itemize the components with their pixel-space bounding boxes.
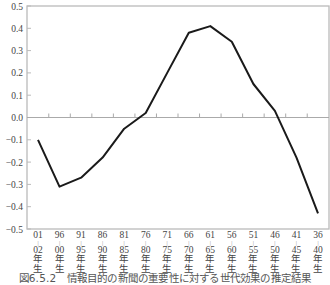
x-tick-label: 96|00年生 bbox=[50, 231, 70, 274]
y-tick-label: 0.0 bbox=[11, 113, 23, 123]
x-tick-label: 51|55年生 bbox=[243, 231, 263, 274]
x-ticks bbox=[49, 114, 307, 118]
x-tick-label: 01|02年生 bbox=[28, 231, 48, 274]
x-tick-label: 41|45年生 bbox=[286, 231, 306, 274]
x-tick-label: 86|90年生 bbox=[93, 231, 113, 274]
x-tick-label: 46|50年生 bbox=[265, 231, 285, 274]
figure-caption: 図6.5.2 情報目的の新聞の重要性に対する世代効果の推定結果 bbox=[0, 270, 330, 285]
y-tick-label: −0.3 bbox=[6, 180, 23, 190]
y-tick-label: 0.3 bbox=[11, 46, 23, 56]
y-tick-label: −0.1 bbox=[6, 135, 23, 145]
y-tick-label: −0.4 bbox=[6, 202, 23, 212]
y-tick-label: 0.1 bbox=[11, 91, 23, 101]
series-group bbox=[38, 26, 318, 213]
y-tick-label: −0.5 bbox=[6, 225, 23, 235]
x-tick-label: 56|60年生 bbox=[222, 231, 242, 274]
x-tick-label: 81|85年生 bbox=[114, 231, 134, 274]
y-tick-label: 0.2 bbox=[11, 68, 23, 78]
x-tick-label: 91|95年生 bbox=[71, 231, 91, 274]
x-tick-label: 66|70年生 bbox=[179, 231, 199, 274]
x-tick-label: 76|80年生 bbox=[136, 231, 156, 274]
series-line bbox=[38, 26, 318, 213]
x-tick-label: 61|65年生 bbox=[200, 231, 220, 274]
x-tick-label: 36|40年生 bbox=[308, 231, 328, 274]
y-tick-label: −0.2 bbox=[6, 158, 23, 168]
y-tick-label: 0.5 bbox=[11, 2, 23, 12]
x-tick-label: 71|75年生 bbox=[157, 231, 177, 274]
y-tick-label: 0.4 bbox=[11, 24, 23, 34]
